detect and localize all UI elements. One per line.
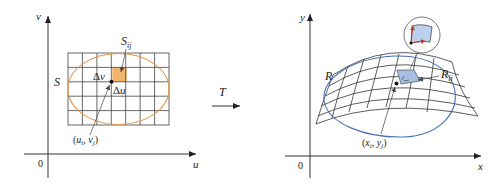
v-axis-label: v	[36, 10, 41, 22]
magnified-inset	[404, 17, 440, 69]
subregion-rij-label: Rij	[440, 67, 454, 83]
origin-label: 0	[38, 158, 43, 169]
point-uv-label: (ui, vj)	[73, 134, 98, 147]
delta-u-label: Δu	[113, 84, 126, 96]
inset-patch	[411, 25, 432, 43]
point-uv-pointer	[90, 85, 110, 135]
u-axis-label: u	[193, 158, 199, 170]
uv-plane: v u 0 S Sij Δv	[24, 10, 199, 178]
transform-t: T	[212, 85, 240, 106]
region-s-label: S	[54, 75, 60, 89]
transform-label: T	[219, 85, 227, 99]
change-of-variables-diagram: v u 0 S Sij Δv	[0, 0, 502, 187]
xy-plane: y x 0	[285, 11, 483, 178]
point-xy-label: (xi, yj)	[362, 137, 387, 150]
y-axis-label: y	[299, 11, 305, 23]
inset-point	[410, 42, 413, 45]
point-xy-pointer	[381, 87, 395, 134]
origin-label-xy: 0	[298, 160, 303, 171]
x-axis-label: x	[477, 160, 483, 172]
subrect-sij-label: Sij	[121, 34, 132, 50]
sample-point-xy	[395, 82, 399, 86]
xy-curved-grid	[316, 53, 478, 124]
delta-v-label: Δv	[93, 70, 105, 82]
region-r-label: R	[324, 69, 333, 83]
sample-point-uv	[110, 80, 114, 84]
subregion-rij	[397, 70, 420, 84]
subrectangle-sij	[112, 67, 126, 81]
